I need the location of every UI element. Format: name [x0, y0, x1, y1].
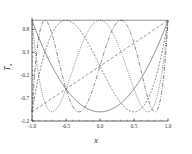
chebyshev-polynomial-figure: Tn x -1.0-0.50.00.51.0 0.80.3-0.2-0.7-1.…: [0, 0, 192, 154]
y-tick-label-4: -1.2: [13, 118, 29, 124]
y-tick-label-2: -0.2: [13, 72, 29, 78]
x-tick-label-4: 1.0: [158, 123, 178, 129]
x-tick-label-2: 0.0: [90, 123, 110, 129]
y-axis-label-subscript: n: [8, 64, 13, 67]
x-tick-label-3: 0.5: [124, 123, 144, 129]
y-tick-label-1: 0.3: [13, 49, 29, 55]
y-tick-label-0: 0.8: [13, 26, 29, 32]
curve-group: [32, 20, 168, 112]
y-tick-label-3: -0.7: [13, 95, 29, 101]
x-tick-label-1: -0.5: [56, 123, 76, 129]
y-axis-label-text: T: [3, 66, 12, 70]
y-axis-label: Tn: [3, 55, 14, 79]
curve-t_1: [32, 20, 168, 112]
x-axis-label: x: [0, 136, 192, 145]
